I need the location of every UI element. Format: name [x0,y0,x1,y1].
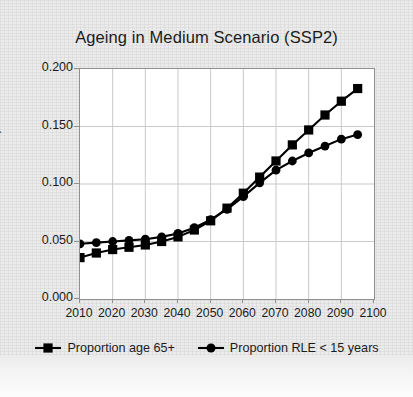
series-marker-circle [337,135,346,144]
series-marker-square [337,97,346,106]
legend-entry-1[interactable]: Proportion RLE < 15 years [197,341,379,355]
series-marker-square [320,110,329,119]
series-marker-circle [141,235,150,244]
y-axis-title: Proportion [0,94,1,152]
page-bottom-fade [0,355,413,397]
series-marker-circle [157,233,166,242]
x-tick-label: 2100 [353,306,393,320]
series-marker-circle [304,149,313,158]
y-tick-label: 0.150 [27,118,73,132]
y-tick-label: 0.200 [27,60,73,74]
series-marker-square [108,245,117,254]
legend-circle-marker-icon [197,341,225,355]
series-line-0 [80,89,358,258]
y-tick-label: 0.050 [27,233,73,247]
y-tick-label: 0.000 [27,290,73,304]
series-marker-square [288,140,297,149]
series-marker-circle [174,229,183,238]
series-marker-square [353,84,362,93]
series-marker-circle [272,166,281,175]
series-marker-circle [288,157,297,166]
legend-label: Proportion RLE < 15 years [230,341,379,355]
plot-svg [80,69,374,299]
series-marker-square [92,248,101,257]
series-marker-square [271,156,280,165]
legend-entry-0[interactable]: Proportion age 65+ [34,341,174,355]
series-marker-circle [125,236,134,245]
series-marker-circle [190,223,199,232]
series-marker-circle [353,130,362,139]
series-marker-circle [92,238,101,247]
plot-area [79,68,375,300]
legend-label: Proportion age 65+ [67,341,174,355]
series-marker-square [304,125,313,134]
y-tick-label: 0.100 [27,175,73,189]
chart-legend: Proportion age 65+Proportion RLE < 15 ye… [0,341,413,355]
series-marker-circle [206,215,215,224]
series-marker-circle [80,239,84,248]
series-marker-circle [108,237,117,246]
series-marker-circle [239,192,248,201]
series-line-1 [80,135,358,244]
chart-title: Ageing in Medium Scenario (SSP2) [0,28,413,47]
legend-square-marker-icon [34,341,62,355]
series-marker-circle [223,205,232,214]
series-marker-circle [255,178,264,187]
series-marker-circle [321,142,330,151]
series-marker-square [80,253,85,262]
